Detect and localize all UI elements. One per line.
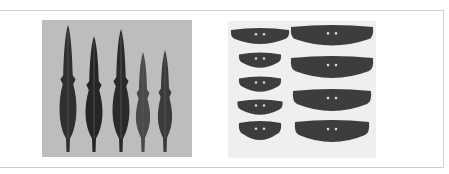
- perforation-hole: [263, 127, 266, 130]
- stone-knife-left-1: [231, 28, 289, 44]
- stone-knife-left-3: [239, 77, 281, 92]
- perforation-hole: [255, 81, 258, 84]
- perforation-hole: [263, 57, 266, 60]
- stone-knife-right-3: [293, 89, 371, 111]
- perforation-hole: [263, 104, 266, 107]
- perforation-hole: [335, 97, 338, 100]
- stone-knives-illustration: [228, 21, 376, 158]
- perforation-hole: [255, 57, 258, 60]
- stone-knife-right-4: [295, 120, 369, 142]
- spearheads-illustration: [42, 20, 192, 157]
- perforation-hole: [335, 128, 338, 131]
- perforation-hole: [255, 127, 258, 130]
- perforation-hole: [263, 81, 266, 84]
- perforation-hole: [335, 64, 338, 67]
- stone-knife-right-2: [291, 56, 373, 78]
- stone-knives-photo: [228, 21, 376, 158]
- perforation-hole: [263, 33, 266, 36]
- frame-bottom-rule: [0, 167, 443, 168]
- perforation-hole: [327, 128, 330, 131]
- frame-right-rule: [443, 10, 444, 168]
- perforation-hole: [327, 64, 330, 67]
- stone-knife-right-1: [291, 25, 373, 46]
- perforation-hole: [255, 33, 258, 36]
- perforation-hole: [327, 97, 330, 100]
- perforation-hole: [335, 32, 338, 35]
- spearheads-photo: [42, 20, 192, 157]
- frame-top-rule: [0, 10, 443, 11]
- stone-knife-left-2: [239, 53, 281, 68]
- stone-knife-left-5: [239, 121, 281, 140]
- perforation-hole: [255, 104, 258, 107]
- perforation-hole: [327, 32, 330, 35]
- stone-knife-left-4: [237, 100, 282, 115]
